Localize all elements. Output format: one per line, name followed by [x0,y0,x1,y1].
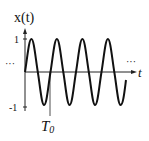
y-axis-label: x(t) [14,10,35,26]
ellipsis-left: ··· [5,58,15,69]
ellipsis-right: ··· [126,56,136,67]
signal-plot: x(t) 1 -1 ··· ··· t T0 [0,0,149,141]
x-axis-label: t [138,65,142,80]
y-tick-label-1: 1 [14,34,19,45]
y-tick-label-neg1: -1 [9,102,17,113]
period-label: T0 [41,118,54,135]
y-axis-arrow-icon [23,28,27,34]
x-axis-arrow-icon [131,70,137,74]
period-label-subscript: 0 [49,124,54,135]
